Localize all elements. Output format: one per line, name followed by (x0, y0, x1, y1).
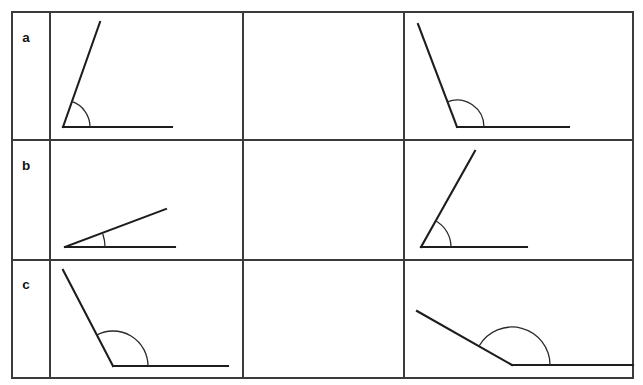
obtuse-angle-c1 (63, 270, 228, 366)
worksheet-canvas: abc (0, 0, 643, 385)
obtuse-angle-a3 (418, 24, 569, 127)
acute-angle-b1 (65, 209, 175, 247)
acute-angle-b1-arc-marker (103, 234, 105, 247)
row-labels: abc (22, 30, 30, 292)
row-label-b: b (22, 158, 30, 173)
table-grid (12, 12, 633, 378)
angle-figures (63, 13, 633, 366)
angle-worksheet: abc (0, 0, 643, 385)
acute-angle-a1-arc-marker (72, 101, 90, 127)
row-label-a: a (22, 30, 30, 45)
acute-angle-a1-slanted-ray (63, 22, 100, 127)
acute-angle-b3 (421, 151, 527, 247)
obtuse-angle-a3-slanted-ray (418, 24, 457, 127)
acute-angle-b1-slanted-ray (65, 209, 166, 247)
obtuse-angle-c3-slanted-ray (417, 311, 512, 365)
acute-angle-a1 (63, 22, 172, 127)
obtuse-angle-c3-arc-marker (479, 327, 550, 365)
empty-answer-cell-a2[interactable] (244, 13, 403, 14)
obtuse-angle-c3 (417, 311, 633, 365)
empty-answer-cell-b2[interactable] (244, 141, 403, 142)
row-label-c: c (22, 277, 30, 292)
empty-answer-cell-c2[interactable] (244, 261, 403, 262)
obtuse-angle-c1-slanted-ray (63, 270, 113, 366)
table-outer-border (12, 12, 633, 378)
acute-angle-b3-arc-marker (436, 221, 451, 247)
